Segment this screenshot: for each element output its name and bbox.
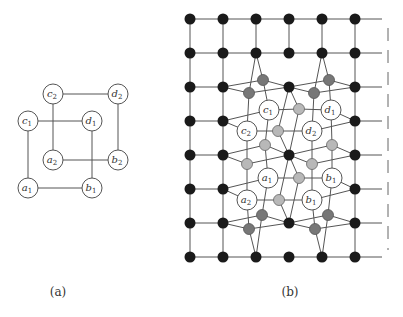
node-c2: c2 — [237, 121, 257, 141]
dark-gray-node — [323, 210, 334, 221]
black-site-node — [284, 82, 295, 93]
node-b1: b1 — [302, 190, 322, 210]
lattice-edge — [314, 53, 322, 93]
black-site-node — [185, 218, 196, 229]
light-gray-node — [274, 195, 285, 206]
black-site-node — [218, 82, 229, 93]
black-site-node — [251, 14, 262, 25]
lattice-edge — [247, 155, 289, 164]
node-c1: c1 — [259, 100, 279, 120]
black-site-node — [284, 252, 295, 263]
light-gray-node — [307, 159, 318, 170]
black-site-node — [350, 252, 361, 263]
black-site-node — [185, 184, 196, 195]
black-site-node — [317, 14, 328, 25]
node-c2: c2 — [43, 84, 63, 104]
black-site-node — [284, 150, 295, 161]
node-d2: d2 — [302, 121, 322, 141]
black-site-node — [185, 82, 196, 93]
black-site-node — [317, 252, 328, 263]
dark-gray-node — [324, 75, 335, 86]
black-site-node — [185, 252, 196, 263]
black-site-node — [185, 14, 196, 25]
light-gray-node — [294, 104, 305, 115]
lattice-edge — [315, 223, 355, 229]
black-site-node — [218, 14, 229, 25]
black-site-node — [218, 218, 229, 229]
lattice-edge — [223, 145, 265, 155]
lattice-edge — [223, 215, 262, 223]
lattice-edge — [256, 215, 262, 257]
node-a1: a1 — [18, 178, 38, 198]
black-site-node — [185, 116, 196, 127]
dark-gray-node — [257, 210, 268, 221]
lattice-edge — [289, 80, 329, 87]
black-site-node — [284, 218, 295, 229]
black-site-node — [251, 48, 262, 59]
panel-b-lattice: c1d1c2d2a1b1a2b1 — [185, 14, 389, 263]
black-site-node — [218, 184, 229, 195]
black-site-node — [350, 82, 361, 93]
lattice-edge — [249, 53, 256, 93]
lattice-edge — [322, 215, 328, 257]
node-b1: b1 — [322, 168, 342, 188]
dark-gray-node — [310, 224, 321, 235]
node-b1: b1 — [82, 178, 102, 198]
lattice-edge — [312, 155, 355, 164]
black-site-node — [317, 48, 328, 59]
node-d1: d1 — [321, 100, 341, 120]
node-a1: a1 — [258, 168, 278, 188]
black-site-node — [251, 252, 262, 263]
black-site-node — [284, 14, 295, 25]
node-b2: b2 — [108, 150, 128, 170]
dark-gray-node — [244, 224, 255, 235]
black-site-node — [350, 184, 361, 195]
node-d1: d1 — [82, 111, 102, 131]
dark-gray-node — [244, 88, 255, 99]
black-site-node — [350, 48, 361, 59]
black-site-node — [218, 150, 229, 161]
black-site-node — [350, 116, 361, 127]
light-gray-node — [242, 159, 253, 170]
black-site-node — [350, 218, 361, 229]
black-site-node — [185, 150, 196, 161]
node-a2: a2 — [43, 150, 63, 170]
black-site-node — [350, 14, 361, 25]
lattice-edge — [223, 80, 263, 87]
node-d2: d2 — [108, 84, 128, 104]
lattice-edge — [314, 87, 355, 93]
black-site-node — [185, 48, 196, 59]
lattice-edge — [289, 109, 299, 155]
lattice-edge — [249, 87, 289, 93]
panel-a-graph: c2d2c1d1a2b2a1b1 — [18, 84, 128, 198]
black-site-node — [350, 150, 361, 161]
lattice-edge — [249, 223, 289, 229]
node-c1: c1 — [18, 111, 38, 131]
figure-canvas: c2d2c1d1a2b2a1b1 c1d1c2d2a1b1a2b1 (a) (b… — [0, 0, 403, 317]
dark-gray-node — [258, 75, 269, 86]
black-site-node — [218, 252, 229, 263]
lattice-edge — [289, 215, 328, 223]
caption-b: (b) — [281, 285, 298, 299]
light-gray-node — [273, 126, 284, 137]
caption-a: (a) — [50, 285, 67, 299]
light-gray-node — [327, 140, 338, 151]
black-site-node — [284, 48, 295, 59]
lattice-edge — [289, 145, 332, 155]
light-gray-node — [294, 173, 305, 184]
light-gray-node — [260, 140, 271, 151]
black-site-node — [218, 116, 229, 127]
dark-gray-node — [309, 88, 320, 99]
black-site-node — [218, 48, 229, 59]
node-a2: a2 — [237, 190, 257, 210]
